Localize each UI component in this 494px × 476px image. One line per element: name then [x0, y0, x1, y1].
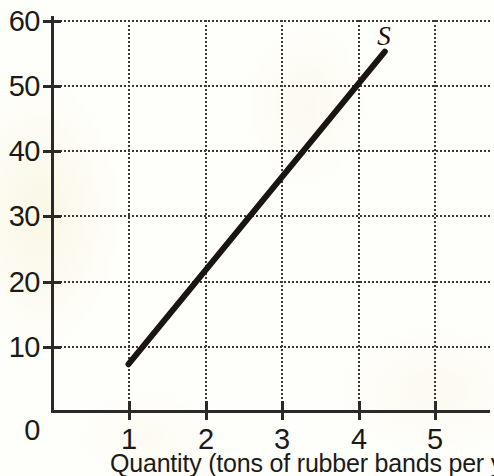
y-tick-20 [43, 281, 61, 284]
y-tick-label-40: 40 [0, 135, 40, 168]
gridline-vertical-5 [434, 20, 436, 411]
gridline-horizontal-50 [52, 85, 490, 87]
plot-area: 60 50 40 30 20 10 0 1 2 3 4 5 S [0, 0, 494, 476]
supply-curve-label: S [377, 21, 391, 52]
y-tick-40 [43, 150, 61, 153]
y-tick-label-10: 10 [0, 331, 40, 364]
gridline-vertical-4 [358, 20, 360, 411]
gridline-vertical-2 [205, 20, 207, 411]
x-tick-4 [358, 401, 361, 420]
gridline-horizontal-20 [52, 281, 490, 283]
y-tick-label-20: 20 [0, 266, 40, 299]
y-tick-label-30: 30 [0, 200, 40, 233]
chart-canvas: 60 50 40 30 20 10 0 1 2 3 4 5 S Quanti [0, 0, 494, 476]
x-tick-3 [281, 401, 284, 420]
y-tick-60 [43, 20, 61, 23]
y-tick-30 [43, 215, 61, 218]
y-tick-50 [43, 85, 61, 88]
gridline-horizontal-30 [52, 215, 490, 217]
supply-curve-svg [0, 0, 494, 476]
x-tick-2 [205, 401, 208, 420]
y-tick-10 [43, 346, 61, 349]
y-tick-label-0: 0 [0, 414, 40, 447]
gridline-horizontal-60 [52, 20, 490, 22]
gridline-vertical-1 [128, 20, 130, 411]
y-tick-label-60: 60 [0, 5, 40, 38]
gridline-vertical-3 [281, 20, 283, 411]
x-axis-line [51, 410, 490, 413]
gridline-horizontal-10 [52, 346, 490, 348]
x-tick-5 [434, 401, 437, 420]
gridline-horizontal-40 [52, 150, 490, 152]
x-axis-title: Quantity (tons of rubber bands per year) [110, 449, 494, 476]
y-tick-label-50: 50 [0, 70, 40, 103]
x-tick-1 [128, 401, 131, 420]
supply-curve-line [129, 52, 385, 365]
